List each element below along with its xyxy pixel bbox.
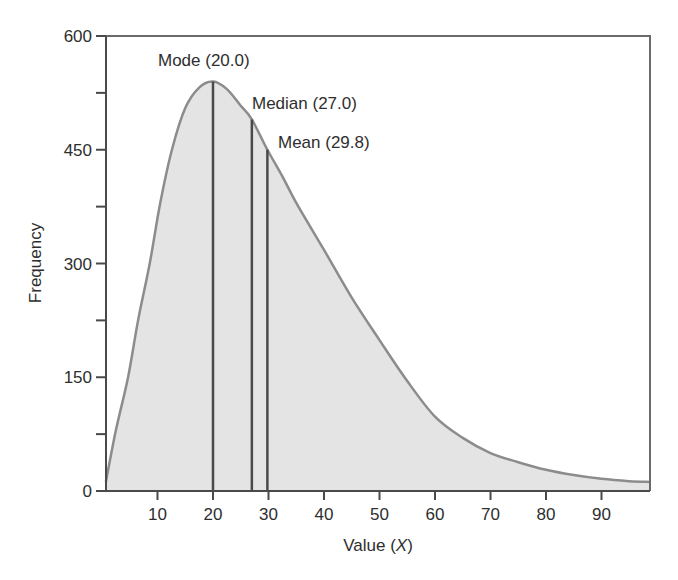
y-tick-label: 600: [64, 27, 92, 46]
x-axis-title: Value (X): [343, 536, 413, 555]
x-tick-label: 80: [537, 505, 556, 524]
x-tick-label: 60: [426, 505, 445, 524]
x-tick-label: 20: [204, 505, 223, 524]
x-tick-label: 70: [481, 505, 500, 524]
annotation-label-1: Median (27.0): [252, 94, 357, 113]
y-tick-label: 0: [83, 482, 92, 501]
x-tick-label: 40: [315, 505, 334, 524]
distribution-area: [106, 81, 650, 491]
x-tick-label: 50: [370, 505, 389, 524]
x-tick-label: 30: [259, 505, 278, 524]
x-tick-label: 10: [148, 505, 167, 524]
distribution-fill: [106, 81, 650, 491]
annotation-label-0: Mode (20.0): [158, 51, 250, 70]
x-axis: 102030405060708090: [148, 491, 611, 524]
y-tick-label: 300: [64, 255, 92, 274]
skewed-distribution-chart: 0150300450600 102030405060708090 Mode (2…: [0, 0, 678, 580]
x-tick-label: 90: [592, 505, 611, 524]
y-axis-title: Frequency: [26, 222, 45, 303]
y-axis: 0150300450600: [64, 27, 106, 501]
annotation-label-2: Mean (29.8): [278, 133, 370, 152]
y-tick-label: 150: [64, 368, 92, 387]
y-tick-label: 450: [64, 141, 92, 160]
